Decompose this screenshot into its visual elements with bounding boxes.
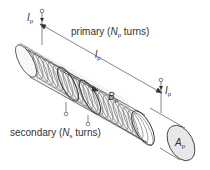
secondary-label: secondary (Ns turns): [10, 128, 101, 139]
secondary-terminal-1: [64, 112, 68, 116]
length-label: lp: [95, 50, 101, 61]
secondary-terminal-2: [86, 122, 90, 126]
area-label: Ap: [175, 138, 185, 149]
primary-terminal-2: [159, 78, 163, 82]
primary-current-label: Ip: [27, 13, 33, 24]
primary-label: primary (Np turns): [71, 27, 149, 38]
primary-terminal-1: [40, 9, 44, 13]
secondary-current-label: Ip: [165, 86, 171, 97]
flux-label: Bp: [108, 92, 118, 103]
